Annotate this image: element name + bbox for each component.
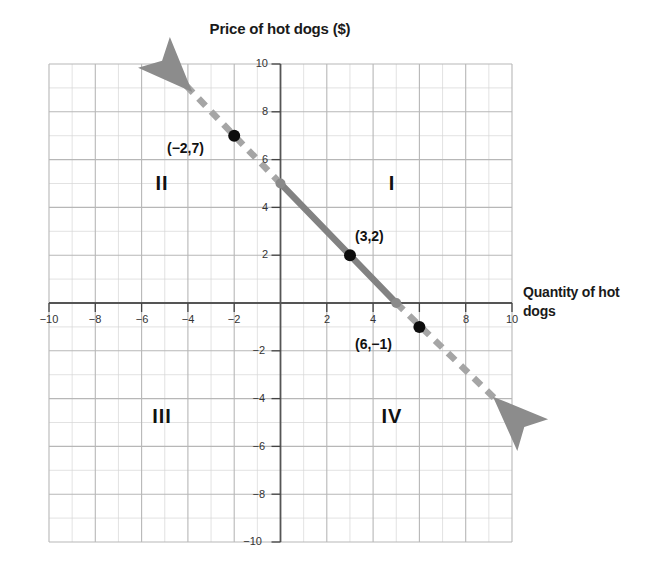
y-tick-pos6: 6	[242, 153, 268, 165]
x-tick-neg2: −2	[219, 313, 249, 325]
point-label-c: (6,−1)	[355, 336, 392, 352]
data-point-b	[344, 249, 356, 261]
x-tick-pos10: 10	[497, 313, 527, 325]
quadrant-label-ii: II	[140, 172, 184, 195]
x-axis-title: Quantity of hot dogs	[523, 283, 643, 321]
x-tick-neg10: −10	[34, 313, 64, 325]
x-tick-neg8: −8	[80, 313, 110, 325]
y-tick-pos2: 2	[242, 248, 268, 260]
y-tick-neg10: −10	[236, 535, 262, 547]
point-label-a: (−2,7)	[167, 140, 204, 156]
x-tick-pos4: 4	[358, 313, 388, 325]
point-label-b: (3,2)	[355, 228, 384, 244]
y-tick-neg2: −2	[239, 344, 265, 356]
y-tick-neg8: −8	[239, 488, 265, 500]
x-tick-neg4: −4	[173, 313, 203, 325]
data-point-c	[413, 321, 425, 333]
quadrant-label-iv: IV	[370, 405, 414, 428]
x-tick-pos2: 2	[312, 313, 342, 325]
quadrant-label-iii: III	[140, 405, 184, 428]
quadrant-label-i: I	[370, 172, 414, 195]
y-tick-neg6: −6	[239, 440, 265, 452]
data-point-a	[228, 130, 240, 142]
graph-figure: Price of hot dogs ($) Quantity of hot do…	[0, 0, 647, 574]
y-tick-neg4: −4	[239, 392, 265, 404]
x-tick-neg6: −6	[127, 313, 157, 325]
y-tick-pos4: 4	[242, 201, 268, 213]
y-tick-pos8: 8	[242, 105, 268, 117]
y-tick-pos10: 10	[242, 57, 268, 69]
page-title: Price of hot dogs ($)	[0, 20, 560, 37]
x-tick-pos8: 8	[451, 313, 481, 325]
